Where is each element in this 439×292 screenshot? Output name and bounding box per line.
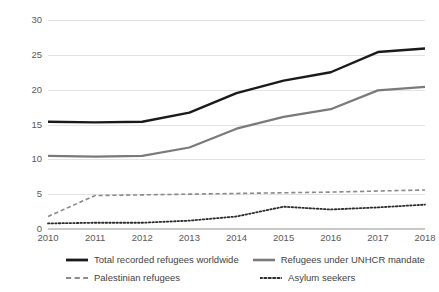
series-line — [48, 49, 425, 123]
series-container — [48, 20, 425, 229]
legend-label: Total recorded refugees worldwide — [94, 254, 239, 266]
legend-item-0[interactable]: Total recorded refugees worldwide — [66, 252, 239, 268]
legend-swatch-line-icon — [66, 255, 88, 265]
series-line — [48, 205, 425, 224]
series-line — [48, 190, 425, 216]
x-tick-label: 2010 — [26, 232, 70, 244]
x-tick-label: 2016 — [309, 232, 353, 244]
x-tick-label: 2012 — [120, 232, 164, 244]
legend-item-1[interactable]: Refugees under UNHCR mandate — [253, 252, 425, 268]
legend-item-3[interactable]: Asylum seekers — [260, 270, 355, 286]
legend-swatch-line-icon — [260, 273, 282, 283]
legend-label: Asylum seekers — [288, 272, 355, 284]
y-tick-label: 5 — [2, 189, 42, 199]
plot-area — [48, 20, 425, 229]
gridline — [48, 229, 425, 230]
x-tick-label: 2014 — [215, 232, 259, 244]
legend-swatch-line-icon — [66, 273, 88, 283]
y-tick-label: 30 — [2, 15, 42, 25]
x-tick-label: 2013 — [167, 232, 211, 244]
x-tick-label: 2011 — [73, 232, 117, 244]
legend-row: Total recorded refugees worldwideRefugee… — [0, 252, 439, 268]
x-axis-tick-labels: 201020112012201320142015201620172018 — [48, 232, 425, 246]
legend-label: Refugees under UNHCR mandate — [281, 254, 425, 266]
chart-legend: Total recorded refugees worldwideRefugee… — [0, 252, 439, 292]
x-tick-label: 2017 — [356, 232, 400, 244]
legend-label: Palestinian refugees — [94, 272, 180, 284]
y-axis-tick-labels: 051015202530 — [0, 20, 42, 229]
legend-swatch-line-icon — [253, 255, 275, 265]
line-chart: 051015202530 201020112012201320142015201… — [0, 0, 439, 292]
y-tick-label: 15 — [2, 120, 42, 130]
y-tick-label: 25 — [2, 50, 42, 60]
legend-row: Palestinian refugeesAsylum seekers — [0, 270, 439, 286]
legend-item-2[interactable]: Palestinian refugees — [66, 270, 180, 286]
y-tick-label: 20 — [2, 85, 42, 95]
x-tick-label: 2015 — [262, 232, 306, 244]
y-tick-label: 10 — [2, 154, 42, 164]
x-tick-label: 2018 — [403, 232, 439, 244]
